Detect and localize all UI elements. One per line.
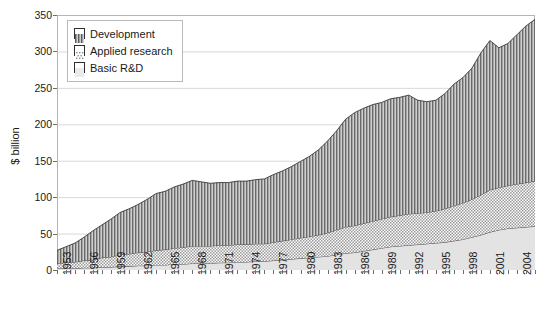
x-tick-mark [337,270,338,274]
x-tick-mark [264,270,265,274]
x-tick-mark [282,270,283,274]
x-tick-mark [66,270,67,274]
x-tick-mark [93,270,94,274]
y-tick-mark [53,124,57,125]
y-tick-label: 150 [34,155,52,167]
x-tick-mark [120,270,121,274]
x-tick-mark [346,270,347,274]
legend-item-development: Development [74,25,173,42]
x-tick-mark [517,270,518,274]
chart-figure: $ billion 050100150200250300350 [0,0,557,311]
x-tick-mark [391,270,392,274]
x-tick-mark [183,270,184,274]
x-tick-mark [111,270,112,274]
x-tick-mark [454,270,455,274]
x-tick-mark [210,270,211,274]
y-tick-label: 300 [34,45,52,57]
y-tick-label: 200 [34,118,52,130]
y-tick-mark [53,197,57,198]
legend-label-basic-rd: Basic R&D [90,62,143,74]
x-tick-mark [147,270,148,274]
y-tick-mark [53,88,57,89]
x-tick-mark [310,270,311,274]
x-tick-mark [291,270,292,274]
x-tick-mark [427,270,428,274]
x-tick-mark [535,270,536,274]
x-tick-mark [400,270,401,274]
x-tick-mark [174,270,175,274]
x-tick-mark [436,270,437,274]
y-tick-mark [53,161,57,162]
y-tick-label: 250 [34,82,52,94]
x-tick-mark [129,270,130,274]
y-tick-label: 50 [40,228,52,240]
x-tick-mark [328,270,329,274]
x-tick-mark [156,270,157,274]
legend-swatch-applied-research-icon [74,45,85,56]
x-tick-mark [319,270,320,274]
x-tick-mark [463,270,464,274]
x-tick-mark [301,270,302,274]
x-tick-mark [255,270,256,274]
legend-label-development: Development [90,28,155,40]
x-tick-mark [355,270,356,274]
legend-swatch-development-icon [74,28,85,39]
y-tick-label: 350 [34,9,52,21]
y-tick-mark [53,51,57,52]
y-tick-label: 0 [46,264,52,276]
x-tick-mark [228,270,229,274]
x-tick-mark [508,270,509,274]
legend-item-applied-research: Applied research [74,42,173,59]
x-tick-mark [75,270,76,274]
x-tick-mark [373,270,374,274]
x-tick-mark [472,270,473,274]
y-axis-title: $ billion [9,101,21,191]
x-tick-mark [499,270,500,274]
x-tick-mark [418,270,419,274]
x-tick-mark [102,270,103,274]
chart-legend: Development Applied research Basic R&D [67,20,183,82]
x-tick-mark [165,270,166,274]
x-tick-mark [192,270,193,274]
y-tick-label: 100 [34,191,52,203]
x-tick-mark [364,270,365,274]
x-tick-mark [481,270,482,274]
legend-item-basic-rd: Basic R&D [74,59,173,76]
x-tick-mark [84,270,85,274]
x-tick-mark [57,270,58,274]
x-tick-mark [219,270,220,274]
x-tick-mark [246,270,247,274]
x-tick-mark [409,270,410,274]
x-tick-mark [201,270,202,274]
legend-label-applied-research: Applied research [90,45,173,57]
legend-swatch-basic-rd-icon [74,62,85,73]
x-tick-mark [237,270,238,274]
x-tick-mark [445,270,446,274]
x-tick-mark [273,270,274,274]
x-tick-mark [526,270,527,274]
x-tick-mark [490,270,491,274]
y-tick-mark [53,234,57,235]
y-tick-mark [53,15,57,16]
x-tick-mark [138,270,139,274]
x-tick-mark [382,270,383,274]
